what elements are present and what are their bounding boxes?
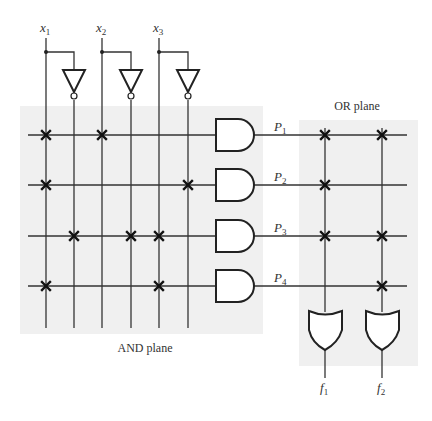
x3-junction-dot (157, 50, 161, 54)
and-gate-p2-icon (216, 169, 254, 201)
not-gate-x2-icon (120, 70, 142, 92)
input-label-x2: x2 (95, 20, 106, 37)
output-label-f1: f1 (320, 380, 328, 397)
pla-diagram: x1 x2 x3 P1 P2 P3 P4 f1 f2 OR plane AND … (0, 0, 432, 421)
x1-junction-dot (44, 50, 48, 54)
not-bubble-x1-icon (71, 93, 77, 99)
input-label-x3: x3 (152, 20, 164, 37)
not-gate-x1-icon (63, 70, 85, 92)
or-plane-label: OR plane (334, 99, 380, 113)
and-gate-p1-icon (216, 119, 254, 151)
product-label-p1: P1 (273, 119, 286, 136)
and-gate-p3-icon (216, 220, 254, 252)
x3-branch (159, 52, 188, 70)
product-label-p3: P3 (273, 220, 287, 237)
product-label-p2: P2 (273, 169, 286, 186)
not-bubble-x3-icon (185, 93, 191, 99)
and-plane-label: AND plane (118, 341, 173, 355)
output-label-f2: f2 (377, 380, 385, 397)
input-label-x1: x1 (39, 20, 50, 37)
not-bubble-x2-icon (128, 93, 134, 99)
and-gate-p4-icon (216, 270, 254, 302)
x2-junction-dot (100, 50, 104, 54)
x2-branch (102, 52, 131, 70)
not-gate-x3-icon (177, 70, 199, 92)
x1-branch (46, 52, 74, 70)
product-label-p4: P4 (273, 270, 287, 287)
